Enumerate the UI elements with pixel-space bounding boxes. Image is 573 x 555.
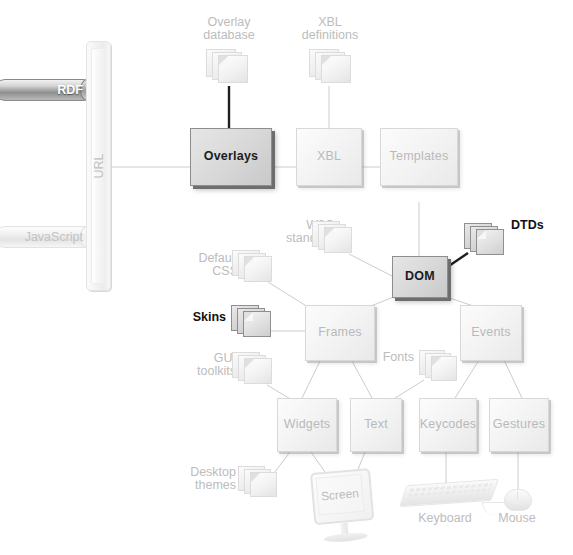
w3c-standards-stack-icon[interactable] xyxy=(312,221,356,257)
line-events-gestures xyxy=(504,360,522,398)
node-events[interactable]: Events xyxy=(460,305,522,361)
resource-skins-label: Skins xyxy=(178,311,226,324)
input-javascript[interactable]: JavaScript xyxy=(0,226,94,248)
device-keyboard-label: Keyboard xyxy=(410,512,480,525)
node-text[interactable]: Text xyxy=(350,398,402,452)
node-widgets[interactable]: Widgets xyxy=(277,398,337,452)
line-frames-text xyxy=(352,361,372,398)
screen-label: Screen xyxy=(315,474,364,516)
node-xbl[interactable]: XBL xyxy=(296,128,362,186)
node-templates-label: Templates xyxy=(388,150,451,164)
device-mouse-label: Mouse xyxy=(489,512,545,525)
resource-gui-toolkits-label: GUI toolkits xyxy=(186,352,236,378)
node-gestures[interactable]: Gestures xyxy=(489,398,549,452)
overlay-database-stack-icon[interactable] xyxy=(206,49,252,87)
node-overlays-label: Overlays xyxy=(202,150,260,164)
node-gestures-label: Gestures xyxy=(491,418,547,432)
screen-monitor-icon[interactable]: Screen xyxy=(310,467,388,545)
resource-xbl-definitions-label: XBL definitions xyxy=(288,16,372,42)
node-keycodes-label: Keycodes xyxy=(418,418,479,432)
node-templates[interactable]: Templates xyxy=(380,128,458,186)
bus-url[interactable]: URL xyxy=(86,41,111,291)
resource-desktop-themes-label: Desktop themes xyxy=(176,466,236,492)
gui-toolkits-stack-icon[interactable] xyxy=(232,352,276,388)
dtds-stack-icon[interactable] xyxy=(464,223,508,259)
input-rdf[interactable]: RDF xyxy=(0,79,94,101)
input-rdf-label: RDF xyxy=(57,83,83,97)
mouse-icon[interactable] xyxy=(504,489,532,511)
node-overlays[interactable]: Overlays xyxy=(190,128,272,186)
node-dom[interactable]: DOM xyxy=(392,256,448,298)
node-text-label: Text xyxy=(362,418,390,432)
xbl-definitions-stack-icon[interactable] xyxy=(309,49,355,87)
bus-url-label: URL xyxy=(92,153,106,178)
node-frames-label: Frames xyxy=(316,326,364,340)
resource-overlay-database-label: Overlay database xyxy=(186,16,272,42)
node-widgets-label: Widgets xyxy=(282,418,333,432)
input-javascript-label: JavaScript xyxy=(25,230,83,244)
desktop-themes-stack-icon[interactable] xyxy=(238,466,280,500)
skins-stack-icon[interactable] xyxy=(231,305,275,341)
fonts-stack-icon[interactable] xyxy=(419,350,459,384)
line-widgets-screen xyxy=(311,452,325,472)
node-keycodes[interactable]: Keycodes xyxy=(419,398,477,452)
resource-default-css-label: Default CSS xyxy=(186,252,238,278)
resource-fonts-label: Fonts xyxy=(376,351,414,364)
node-dom-label: DOM xyxy=(403,270,437,284)
node-events-label: Events xyxy=(469,326,512,340)
node-frames[interactable]: Frames xyxy=(305,305,375,361)
node-xbl-label: XBL xyxy=(315,150,343,164)
line-frames-widgets xyxy=(302,361,320,398)
default-css-stack-icon[interactable] xyxy=(232,250,276,286)
diagram-canvas: RDF JavaScript URL Overlay database XBL … xyxy=(0,0,573,555)
resource-dtds-label: DTDs xyxy=(511,219,567,232)
line-w3c-dom xyxy=(349,254,392,276)
